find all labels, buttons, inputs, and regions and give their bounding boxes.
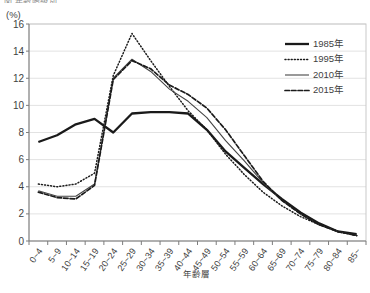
chart-legend: 1985年1995年2010年2015年 <box>285 38 344 96</box>
x-tick-label: 60~64 <box>246 246 269 272</box>
x-tick-label: 5~9 <box>46 246 63 264</box>
legend-label-2015年: 2015年 <box>313 84 344 95</box>
x-axis-title: 年齢層 <box>183 269 210 279</box>
y-axis-tick-labels: 0246810121416 <box>13 19 29 247</box>
x-axis-ticks <box>29 241 366 245</box>
legend-label-1995年: 1995年 <box>313 53 344 64</box>
series-line-1995年 <box>38 33 356 235</box>
x-axis-title-label: 年齢層 <box>183 269 210 279</box>
x-tick-label: 65~69 <box>265 246 288 272</box>
legend-label-2010年: 2010年 <box>313 69 344 80</box>
data-series-group <box>38 33 356 235</box>
y-tick-label: 10 <box>13 100 25 111</box>
x-tick-label: 80~84 <box>321 246 344 272</box>
y-tick-label: 0 <box>18 236 24 247</box>
x-tick-label: 50~54 <box>209 246 232 272</box>
y-tick-label: 2 <box>18 208 24 219</box>
line-chart: 0246810121416 0~45~910~1415~1920~2425~29… <box>0 0 370 293</box>
x-tick-label: 20~24 <box>97 246 120 272</box>
y-tick-label: 12 <box>13 73 25 84</box>
y-tick-label: 16 <box>13 19 25 30</box>
x-tick-label: 25~29 <box>115 246 138 272</box>
y-tick-label: 14 <box>13 46 25 57</box>
x-tick-label: 15~19 <box>78 246 101 272</box>
y-tick-label: 6 <box>18 154 24 165</box>
series-line-2015年 <box>38 61 356 236</box>
chart-container: 図 年齢階級別 (%) 0246810121416 0~45~910~1415~… <box>0 0 370 293</box>
x-tick-label: 35~39 <box>153 246 176 272</box>
series-line-1985年 <box>38 112 356 234</box>
y-tick-label: 4 <box>18 181 24 192</box>
x-tick-label: 85~ <box>346 246 363 264</box>
x-tick-label: 75~79 <box>303 246 326 272</box>
x-tick-label: 55~59 <box>228 246 251 272</box>
x-tick-label: 0~4 <box>28 246 45 264</box>
y-tick-label: 8 <box>18 127 24 138</box>
x-tick-label: 10~14 <box>59 246 82 272</box>
legend-label-1985年: 1985年 <box>313 38 344 49</box>
x-tick-label: 30~34 <box>134 246 157 272</box>
x-tick-label: 70~74 <box>284 246 307 272</box>
series-line-2010年 <box>38 59 356 235</box>
